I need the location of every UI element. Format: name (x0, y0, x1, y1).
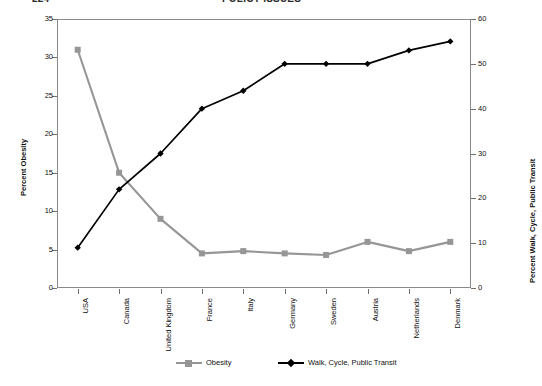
category-label: Canada (122, 298, 131, 324)
left-tick-label: 35 (23, 14, 53, 23)
left-axis-title: Percent Obesity (19, 139, 28, 196)
category-tick-mark (119, 289, 120, 294)
category-label: Italy (246, 298, 255, 312)
plot-area (57, 19, 471, 288)
category-tick-mark (202, 289, 203, 294)
right-tick-label: 0 (478, 283, 508, 292)
category-label: France (205, 298, 214, 321)
right-tick-mark (471, 64, 476, 65)
category-label: Netherlands (412, 298, 421, 338)
page-folio-number: 224 (32, 0, 49, 4)
right-tick-mark (471, 154, 476, 155)
right-tick-label: 40 (478, 104, 508, 113)
category-label: Austria (371, 298, 380, 321)
legend-swatch-obesity (176, 358, 202, 367)
category-tick-mark (450, 289, 451, 294)
category-label: Sweden (329, 298, 338, 325)
category-tick-mark (409, 289, 410, 294)
category-label: Denmark (453, 298, 462, 328)
right-tick-label: 30 (478, 149, 508, 158)
category-tick-mark (161, 289, 162, 294)
right-tick-label: 60 (478, 14, 508, 23)
category-tick-mark (326, 289, 327, 294)
chart-legend: Obesity Walk, Cycle, Public Transit (0, 358, 542, 374)
category-label: United Kingdom (164, 298, 173, 351)
page-running-header: 224 POLICY ISSUES (0, 0, 542, 7)
category-label: USA (81, 298, 90, 313)
right-tick-mark (471, 19, 476, 20)
legend-swatch-transit (278, 358, 304, 367)
right-tick-mark (471, 243, 476, 244)
category-tick-mark (78, 289, 79, 294)
running-title: POLICY ISSUES (222, 0, 301, 4)
category-tick-mark (243, 289, 244, 294)
category-label: Germany (288, 298, 297, 329)
right-tick-label: 50 (478, 59, 508, 68)
left-tick-label: 0 (23, 283, 53, 292)
right-axis-title: Percent Walk, Cycle, Public Transit (528, 159, 537, 283)
legend-label-transit: Walk, Cycle, Public Transit (308, 358, 397, 367)
left-tick-label: 10 (23, 206, 53, 215)
legend-entry-obesity: Obesity (176, 358, 231, 367)
legend-label-obesity: Obesity (206, 358, 231, 367)
left-tick-label: 20 (23, 129, 53, 138)
right-tick-mark (471, 198, 476, 199)
legend-entry-transit: Walk, Cycle, Public Transit (278, 358, 397, 367)
right-tick-mark (471, 109, 476, 110)
right-tick-mark (471, 288, 476, 289)
right-tick-label: 20 (478, 193, 508, 202)
left-tick-label: 5 (23, 245, 53, 254)
left-tick-label: 30 (23, 52, 53, 61)
right-tick-label: 10 (478, 238, 508, 247)
left-tick-label: 25 (23, 91, 53, 100)
category-tick-mark (285, 289, 286, 294)
category-tick-mark (368, 289, 369, 294)
chart-page: 224 POLICY ISSUES 05101520253035 0102030… (0, 0, 542, 386)
